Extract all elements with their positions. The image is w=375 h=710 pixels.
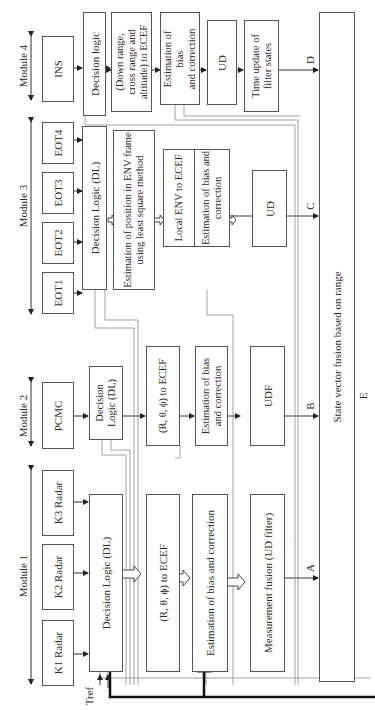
m2-decision-logic-block: DecisionLogic (DL) bbox=[89, 366, 123, 440]
eot2-block: EOT2 bbox=[42, 222, 74, 264]
time-update-block: Time update offilter states bbox=[244, 20, 279, 112]
state-vector-fusion-block: State vector fusion based on range bbox=[319, 12, 355, 682]
eot4-block: EOT4 bbox=[42, 122, 74, 164]
output-e-label: E bbox=[357, 393, 369, 400]
module-2-label: Module 2 bbox=[17, 395, 29, 437]
output-d-label: D bbox=[304, 56, 316, 64]
k1-radar-block: K1 Radar bbox=[42, 620, 74, 686]
m2-ecef-conversion-block: (R, θ, ϕ) to ECEF bbox=[146, 346, 180, 446]
output-c-label: C bbox=[304, 202, 316, 209]
m4-decision-logic-block: Decision logic bbox=[83, 12, 106, 116]
measurement-fusion-block: Measurement fusion (UD filter) bbox=[250, 494, 285, 672]
m3-decision-logic-block: Decision Logic (DL) bbox=[82, 126, 107, 290]
m3-bias-estimation-block: Estimation of bias andcorrection bbox=[194, 149, 230, 247]
k2-radar-block: K2 Radar bbox=[42, 544, 74, 610]
m2-bias-estimation-block: Estimation of biasand correction bbox=[195, 346, 228, 446]
module-3-label: Module 3 bbox=[17, 185, 29, 227]
ins-block: INS bbox=[42, 36, 74, 102]
eot3-block: EOT3 bbox=[42, 172, 74, 214]
m1-decision-logic-block: Decision Logic (DL) bbox=[89, 494, 123, 672]
module-1-label: Module 1 bbox=[17, 555, 29, 597]
output-a-label: A bbox=[304, 564, 316, 572]
k3-radar-block: K3 Radar bbox=[42, 470, 74, 536]
module-4-label: Module 4 bbox=[17, 45, 29, 87]
eot1-block: EOT1 bbox=[42, 272, 74, 314]
ls-position-estimation-block: Estimation of position in ENV frameusing… bbox=[113, 130, 155, 290]
m4-ecef-conversion-block: (Down range,cross range andaltitude) to … bbox=[111, 12, 152, 112]
tref-label: Tref bbox=[83, 687, 95, 706]
udf-block: UDF bbox=[250, 346, 285, 446]
m3-ud-block: UD bbox=[252, 170, 287, 247]
m1-bias-estimation-block: Estimation of bias and correction bbox=[192, 494, 228, 672]
m4-bias-estimation-block: Estimation ofbiasand correction bbox=[160, 12, 200, 105]
m1-ecef-conversion-block: (R, θ, ϕ) to ECEF bbox=[146, 494, 180, 672]
pcmc-block: PCMC bbox=[42, 382, 74, 449]
local-env-to-ecef-block: Local ENV to ECEF bbox=[163, 149, 195, 247]
m4-ud-block: UD bbox=[207, 20, 237, 105]
output-b-label: B bbox=[304, 402, 316, 409]
